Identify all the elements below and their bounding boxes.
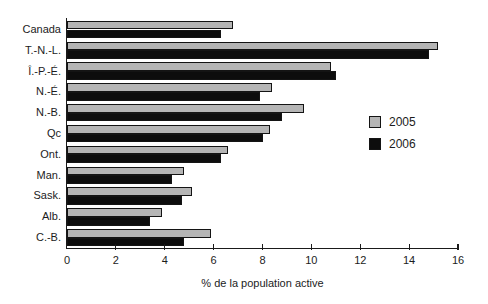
bar-2006-n xyxy=(67,92,260,101)
category-label-canada: Canada xyxy=(0,23,61,36)
bar-2005-man xyxy=(67,167,184,176)
bar-2006-t-n-l xyxy=(67,50,429,59)
x-tick-4 xyxy=(164,244,165,250)
x-tick-6 xyxy=(213,244,214,250)
category-label-alb: Alb. xyxy=(0,210,61,223)
bar-2006-qc xyxy=(67,134,263,143)
x-tick-label-16: 16 xyxy=(443,254,473,266)
x-tick-8 xyxy=(262,244,263,250)
x-tick-label-0: 0 xyxy=(52,254,82,266)
bar-2005-n xyxy=(67,83,272,92)
x-tick-16 xyxy=(457,244,458,250)
legend-item-2005: 2005 xyxy=(369,116,416,128)
category-label-n-b: N.-B. xyxy=(0,106,61,119)
bar-2005-n-b xyxy=(67,104,304,113)
x-tick-label-8: 8 xyxy=(248,254,278,266)
bar-2006-man xyxy=(67,175,172,184)
bar-2006-ont xyxy=(67,154,221,163)
bar-2005-alb xyxy=(67,208,162,217)
bar-2005-sask xyxy=(67,187,192,196)
x-tick-label-12: 12 xyxy=(345,254,375,266)
bar-2006-n-b xyxy=(67,113,282,122)
bar-2006-canada xyxy=(67,30,221,39)
category-label-t-n-l: T.-N.-L. xyxy=(0,44,61,57)
category-label-qc: Qc xyxy=(0,127,61,140)
bar-2005-t-n-l xyxy=(67,42,438,51)
category-label-ont: Ont. xyxy=(0,148,61,161)
category-label-n: N.-É. xyxy=(0,85,61,98)
legend-swatch-2006 xyxy=(369,138,381,150)
bar-2006-alb xyxy=(67,217,150,226)
bar-2005-qc xyxy=(67,125,270,134)
category-label-c-b: C.-B. xyxy=(0,231,61,244)
legend-label-2006: 2006 xyxy=(389,137,416,151)
x-tick-12 xyxy=(360,244,361,250)
unemployment-rate-bar-chart: CanadaT.-N.-L.Î.-P.-É.N.-É.N.-B.QcOnt.Ma… xyxy=(0,0,488,304)
legend-item-2006: 2006 xyxy=(369,138,416,150)
bar-2005-ont xyxy=(67,146,228,155)
category-label-p: Î.-P.-É. xyxy=(0,65,61,78)
legend: 2005 2006 xyxy=(369,116,416,160)
bar-2006-c-b xyxy=(67,238,184,247)
x-tick-label-10: 10 xyxy=(296,254,326,266)
category-label-man: Man. xyxy=(0,169,61,182)
x-tick-label-4: 4 xyxy=(150,254,180,266)
bar-2006-p xyxy=(67,71,336,80)
x-axis-title: % de la population active xyxy=(67,277,458,289)
x-tick-label-2: 2 xyxy=(101,254,131,266)
x-tick-14 xyxy=(409,244,410,250)
bar-2005-c-b xyxy=(67,229,211,238)
bar-2006-sask xyxy=(67,196,182,205)
category-label-sask: Sask. xyxy=(0,189,61,202)
bar-2005-canada xyxy=(67,21,233,30)
x-tick-2 xyxy=(115,244,116,250)
x-tick-label-6: 6 xyxy=(199,254,229,266)
legend-label-2005: 2005 xyxy=(389,115,416,129)
x-tick-10 xyxy=(311,244,312,250)
legend-swatch-2005 xyxy=(369,116,381,128)
x-tick-label-14: 14 xyxy=(394,254,424,266)
bar-2005-p xyxy=(67,62,331,71)
